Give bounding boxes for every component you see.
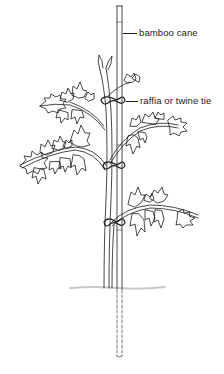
ground-line	[70, 287, 165, 289]
bamboo-cane-label: bamboo cane	[139, 27, 198, 38]
raffia-tie-label: raffia or twine tie	[140, 95, 211, 106]
branch-lower-right	[112, 187, 198, 236]
branch-middle-right	[110, 112, 187, 164]
tie-leader-line	[126, 101, 138, 102]
main-stem	[98, 55, 114, 288]
bamboo-cane-underground	[117, 290, 122, 357]
branch-middle-left	[20, 125, 106, 184]
branch-upper-left	[40, 82, 105, 130]
bamboo-cane-leader-line	[123, 33, 137, 34]
raffia-ties	[101, 97, 125, 226]
branch-top-right	[108, 73, 140, 96]
tomato-plant-illustration	[0, 0, 224, 374]
